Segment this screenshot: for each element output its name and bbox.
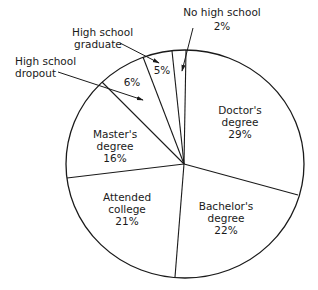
svg-text:degree: degree <box>208 212 245 224</box>
svg-text:Doctor's: Doctor's <box>218 104 262 116</box>
svg-text:29%: 29% <box>228 128 251 140</box>
svg-text:2%: 2% <box>214 20 231 32</box>
pie-chart: Doctor's degree 29% Bachelor's degree 22… <box>0 0 318 290</box>
svg-text:No high school: No high school <box>183 6 261 18</box>
svg-text:degree: degree <box>222 116 259 128</box>
svg-text:22%: 22% <box>214 224 237 236</box>
svg-text:graduate: graduate <box>74 38 122 50</box>
svg-text:college: college <box>108 203 146 215</box>
svg-text:dropout: dropout <box>15 67 56 79</box>
slice-label-graduate-pct: 5% <box>154 64 171 76</box>
svg-text:degree: degree <box>97 140 134 152</box>
svg-text:Attended: Attended <box>103 191 151 203</box>
svg-text:21%: 21% <box>115 215 138 227</box>
svg-text:Master's: Master's <box>93 128 137 140</box>
svg-text:High school: High school <box>72 26 133 38</box>
slice-label-dropout-pct: 6% <box>124 76 141 88</box>
svg-text:High school: High school <box>15 55 76 67</box>
svg-text:16%: 16% <box>103 152 126 164</box>
svg-text:Bachelor's: Bachelor's <box>199 200 254 212</box>
